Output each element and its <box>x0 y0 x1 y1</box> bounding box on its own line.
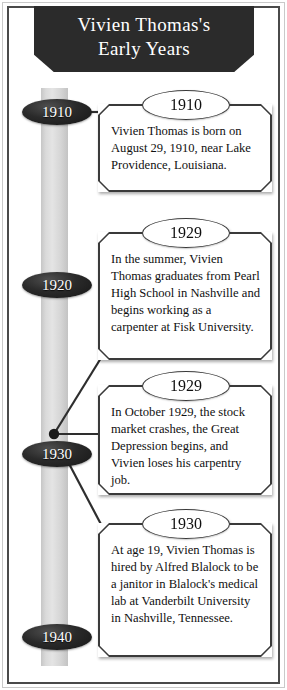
event-text: At age 19, Vivien Thomas is hired by Alf… <box>98 523 272 657</box>
decade-marker-label: 1920 <box>42 278 72 293</box>
event-year-label: 1910 <box>170 97 202 113</box>
page-title: Vivien Thomas's Early Years <box>77 13 210 64</box>
event-callout: At age 19, Vivien Thomas is hired by Alf… <box>98 523 272 657</box>
event-year-badge: 1929 <box>142 218 230 248</box>
event-callout: In the summer, Vivien Thomas graduates f… <box>98 232 272 360</box>
event-year-badge: 1910 <box>142 90 230 120</box>
timeline-axis-bar <box>41 88 68 666</box>
decade-marker-1910: 1910 <box>22 99 92 125</box>
decade-marker-1930: 1930 <box>22 441 92 467</box>
decade-marker-label: 1940 <box>42 630 72 645</box>
event-year-label: 1930 <box>170 516 202 532</box>
event-callout: In October 1929, the stock market crashe… <box>98 385 272 495</box>
event-year-badge: 1929 <box>142 371 230 401</box>
timeline-infographic: Vivien Thomas's Early Years 1910 1920 19… <box>0 0 287 690</box>
decade-marker-1920: 1920 <box>22 272 92 298</box>
decade-marker-label: 1910 <box>42 105 72 120</box>
decade-marker-1940: 1940 <box>22 624 92 650</box>
event-callout: Vivien Thomas is born on August 29, 1910… <box>98 104 272 192</box>
decade-marker-label: 1930 <box>42 447 72 462</box>
event-text: In October 1929, the stock market crashe… <box>98 385 272 495</box>
event-year-badge: 1930 <box>142 509 230 539</box>
event-year-label: 1929 <box>170 378 202 394</box>
event-year-label: 1929 <box>170 225 202 241</box>
event-text: In the summer, Vivien Thomas graduates f… <box>98 232 272 360</box>
title-banner: Vivien Thomas's Early Years <box>34 6 254 72</box>
